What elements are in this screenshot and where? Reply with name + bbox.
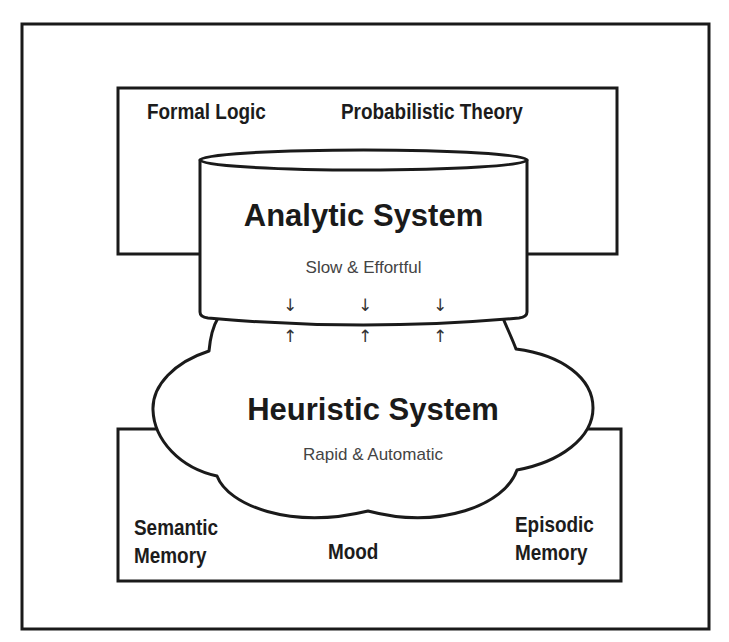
label-formal-logic: Formal Logic [147,99,266,125]
heuristic-system-title: Heuristic System [153,392,593,428]
label-episodic-memory-line1: Episodic [515,512,594,538]
analytic-system-title: Analytic System [200,198,527,234]
arrow-up-icon: ↑ [358,328,372,345]
label-semantic-memory-line2: Memory [134,543,207,569]
label-episodic-memory-line2: Memory [515,540,588,566]
heuristic-system-subtitle: Rapid & Automatic [153,445,593,465]
dual-process-diagram: Formal Logic Probabilistic Theory Analyt… [0,0,729,642]
arrow-down-icon: ↓ [283,297,297,314]
analytic-cylinder-top [200,150,527,170]
label-mood: Mood [328,539,378,565]
arrow-down-icon: ↓ [433,297,447,314]
arrow-down-icon: ↓ [358,297,372,314]
analytic-system-subtitle: Slow & Effortful [200,258,527,278]
arrow-up-icon: ↑ [433,328,447,345]
arrow-up-icon: ↑ [283,328,297,345]
label-semantic-memory-line1: Semantic [134,515,218,541]
label-probabilistic-theory: Probabilistic Theory [341,99,523,125]
